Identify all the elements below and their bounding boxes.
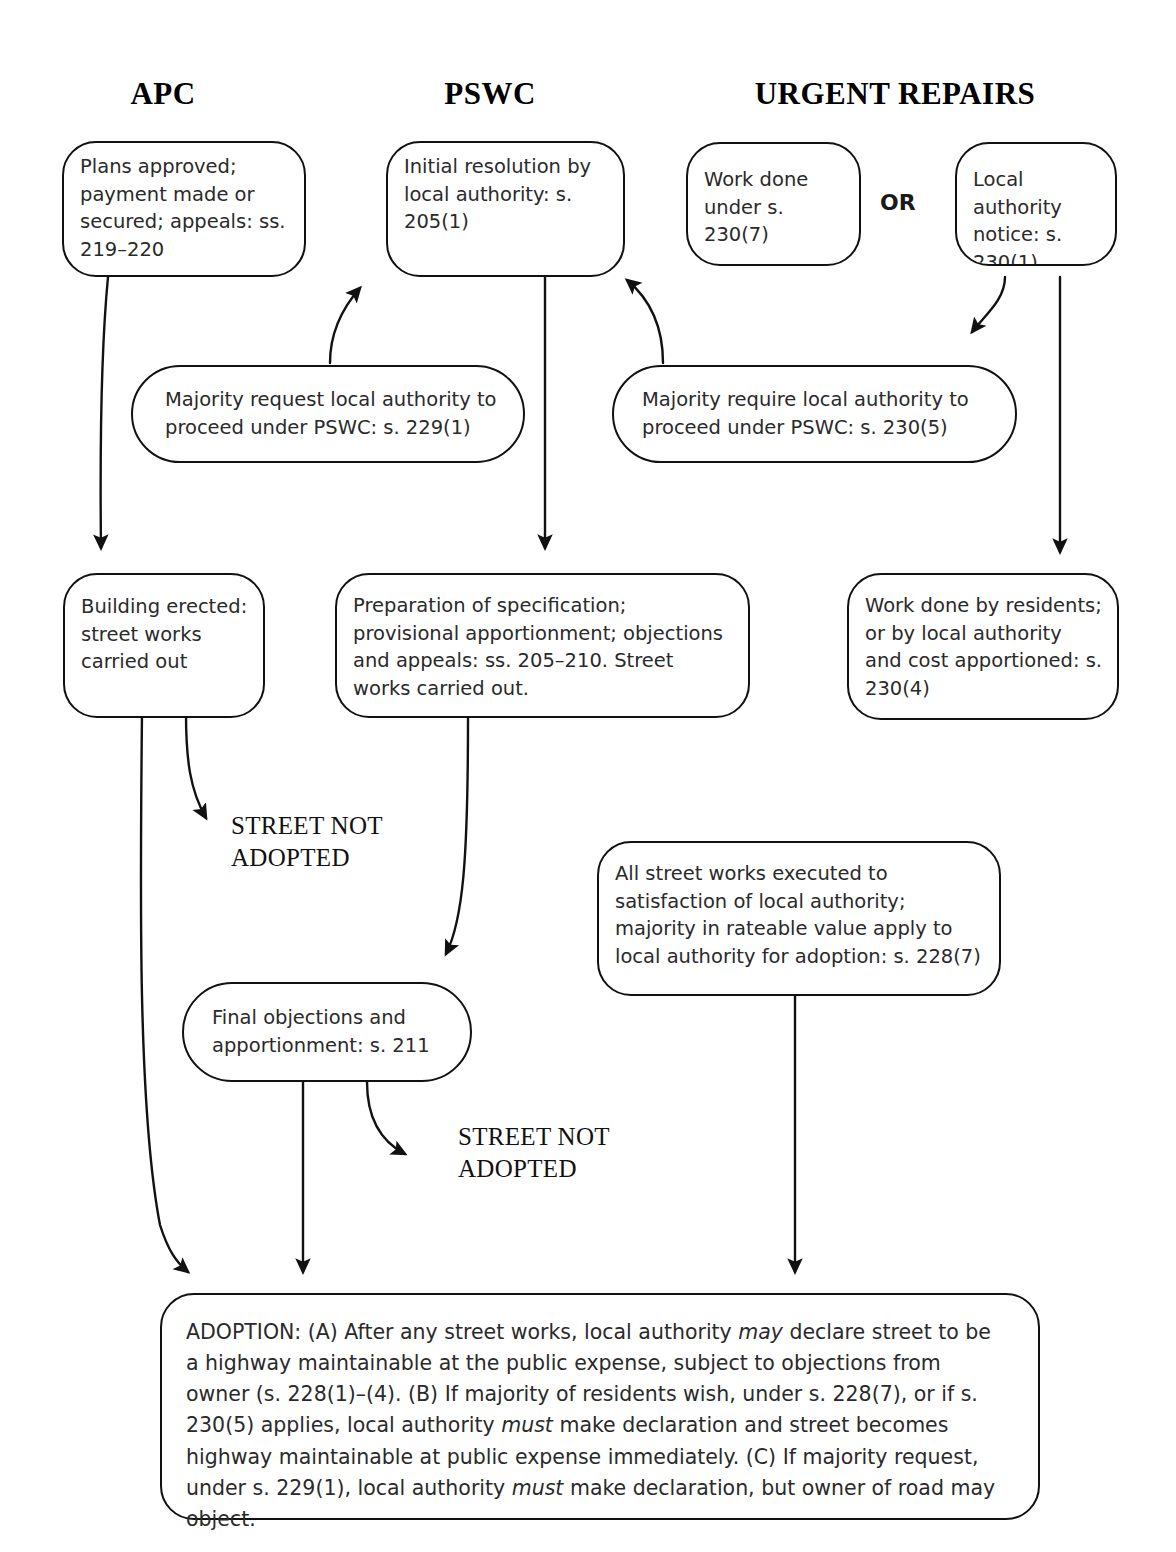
node-final-objections[interactable]: Final objections and apportionment: s. 2… — [182, 982, 472, 1082]
column-header-pswc: PSWC — [390, 76, 590, 112]
edge-majority-request-to-initial — [330, 288, 360, 363]
node-plans-approved[interactable]: Plans approved; payment made or secured;… — [62, 141, 306, 277]
edge-final-objections-to-street-not-adopted-2 — [367, 1082, 405, 1154]
edge-majority-require-to-initial — [627, 280, 663, 363]
node-final-objections-text: Final objections and apportionment: s. 2… — [212, 1004, 452, 1059]
node-building-erected-text: Building erected: street works carried o… — [81, 593, 249, 676]
node-work-done-230-7-text: Work done under s. 230(7) — [704, 166, 845, 249]
node-all-street-works[interactable]: All street works executed to satisfactio… — [597, 841, 1001, 996]
edge-building-to-adoption — [141, 713, 188, 1272]
edge-plans-to-building — [101, 277, 108, 548]
or-connector-label: OR — [880, 190, 916, 215]
node-initial-resolution-text: Initial resolution by local authority: s… — [404, 153, 609, 236]
column-header-urgent-repairs: URGENT REPAIRS — [700, 76, 1090, 112]
edge-notice-to-majority-require — [972, 277, 1005, 332]
node-work-done-residents-text: Work done by residents; or by local auth… — [865, 592, 1103, 703]
node-adoption-text: ADOPTION: (A) After any street works, lo… — [186, 1320, 995, 1531]
node-majority-require-text: Majority require local authority to proc… — [642, 386, 995, 441]
edge-building-to-street-not-adopted-1 — [186, 713, 206, 818]
node-majority-request[interactable]: Majority request local authority to proc… — [131, 365, 525, 463]
terminal-street-not-adopted-1: STREET NOT ADOPTED — [231, 810, 461, 874]
column-header-apc: APC — [63, 76, 263, 112]
node-work-done-residents[interactable]: Work done by residents; or by local auth… — [847, 573, 1119, 720]
node-majority-require[interactable]: Majority require local authority to proc… — [612, 365, 1017, 463]
node-local-authority-notice[interactable]: Local authority notice: s. 230(1) — [955, 142, 1117, 266]
node-majority-request-text: Majority request local authority to proc… — [165, 386, 503, 441]
node-building-erected[interactable]: Building erected: street works carried o… — [63, 573, 265, 718]
node-adoption[interactable]: ADOPTION: (A) After any street works, lo… — [160, 1293, 1040, 1520]
node-preparation-specification[interactable]: Preparation of specification; provisiona… — [335, 573, 750, 718]
node-preparation-specification-text: Preparation of specification; provisiona… — [353, 592, 734, 703]
node-initial-resolution[interactable]: Initial resolution by local authority: s… — [386, 141, 625, 277]
node-work-done-230-7[interactable]: Work done under s. 230(7) — [686, 142, 861, 266]
node-plans-approved-text: Plans approved; payment made or secured;… — [80, 153, 290, 264]
flowchart-canvas: APC PSWC URGENT REPAIRS — [0, 0, 1176, 1552]
node-all-street-works-text: All street works executed to satisfactio… — [615, 860, 985, 971]
node-local-authority-notice-text: Local authority notice: s. 230(1) — [973, 166, 1101, 266]
terminal-street-not-adopted-2: STREET NOT ADOPTED — [458, 1121, 698, 1185]
